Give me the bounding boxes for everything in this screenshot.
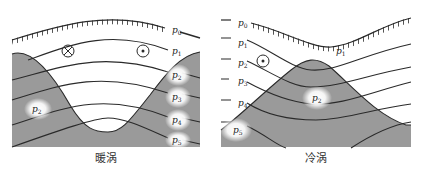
- label-p1: p1: [172, 46, 182, 57]
- cold-eddy-diagram: p0 p1 p2 p3 p4 p5 p1 p2: [211, 0, 422, 169]
- label-p3: p3: [238, 76, 248, 87]
- out-of-page-icon: [257, 55, 269, 67]
- warm-eddy-caption: 暖涡: [95, 149, 117, 165]
- label-p1: p1: [238, 38, 248, 49]
- warm-eddy-diagram: p0 p1 p2 p3 p4 p5 p2: [0, 0, 211, 169]
- label-p2: p2: [238, 58, 248, 69]
- cold-eddy-caption: 冷涡: [305, 149, 327, 165]
- label-p0: p0: [238, 18, 248, 29]
- label-p4: p4: [238, 98, 248, 109]
- warm-eddy-panel: p0 p1 p2 p3 p4 p5 p2: [0, 0, 211, 169]
- out-of-page-icon: [137, 45, 149, 57]
- cold-eddy-panel: p0 p1 p2 p3 p4 p5 p1 p2: [211, 0, 422, 169]
- label-p0: p0: [172, 25, 182, 36]
